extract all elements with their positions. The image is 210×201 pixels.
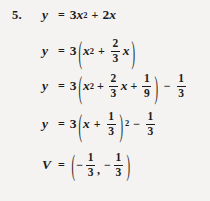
step-5-fraction-1-denominator: 3 [87, 166, 95, 179]
step-5-fraction-2-numerator: 1 [115, 152, 123, 165]
equation-step-4: y = 3 ( x + 1 3 ) 2 − 1 3 [42, 111, 157, 137]
step-1-term2-variable: x [109, 8, 116, 22]
step-3-lhs: y [42, 79, 55, 93]
step-2-fraction-numerator: 2 [111, 38, 119, 51]
step-2-fraction: 2 3 [111, 38, 120, 64]
step-3-operator-1: + [97, 80, 104, 92]
step-5-negative-sign-1: − [76, 159, 83, 171]
step-1-lhs: y [42, 8, 55, 22]
step-3-close-paren: ) [155, 70, 159, 102]
step-4-fraction-1: 1 3 [107, 111, 116, 137]
step-3-fraction-3-denominator: 3 [177, 87, 185, 100]
step-3-fraction-1-variable: x [121, 79, 128, 93]
step-4-operator-1: + [94, 118, 101, 130]
step-2-open-paren: ( [78, 35, 82, 67]
step-4-fraction-1-denominator: 3 [107, 125, 115, 138]
step-4-paren-exponent: 2 [125, 119, 129, 128]
step-2-lhs: y [42, 44, 55, 58]
step-5-comma: , [97, 164, 100, 178]
step-4-coefficient: 3 [70, 117, 77, 131]
step-5-fraction-1-numerator: 1 [87, 152, 95, 165]
step-5-fraction-2: 1 3 [114, 152, 123, 178]
step-3-fraction-1: 2 3 [109, 73, 118, 99]
step-2-fraction-variable: x [123, 44, 130, 58]
step-1-equals: = [58, 9, 65, 21]
step-5-fraction-2-denominator: 3 [115, 166, 123, 179]
step-3-fraction-1-denominator: 3 [109, 87, 117, 100]
step-5-equals: = [58, 159, 65, 171]
step-4-fraction-1-numerator: 1 [107, 111, 115, 124]
step-1-variable: x [77, 8, 84, 22]
step-4-fraction-2: 1 3 [146, 111, 155, 137]
step-1-operator: + [92, 9, 99, 21]
step-5-lhs: V [42, 158, 55, 172]
step-5-close-paren: ) [126, 151, 130, 180]
step-3-coefficient: 3 [70, 79, 77, 93]
step-5-fraction-1: 1 3 [86, 152, 95, 178]
step-3-open-paren: ( [78, 70, 82, 102]
step-2-equals: = [58, 45, 65, 57]
step-4-close-paren-group: ) 2 [118, 118, 130, 131]
worked-solution-sheet: 5. y = 3 x 2 + 2 x y = 3 ( x 2 + 2 3 x )… [0, 0, 210, 201]
step-2-fraction-denominator: 3 [111, 52, 119, 65]
step-3-fraction-3-numerator: 1 [177, 73, 185, 86]
step-4-close-paren: ) [119, 108, 123, 140]
step-3-fraction-2-denominator: 9 [143, 87, 151, 100]
step-3-equals: = [58, 80, 65, 92]
step-5-negative-sign-2: − [104, 159, 111, 171]
step-4-variable: x [83, 117, 90, 131]
equation-step-2: y = 3 ( x 2 + 2 3 x ) [42, 38, 136, 64]
problem-number: 5. [12, 8, 22, 23]
step-4-open-paren: ( [78, 108, 82, 140]
step-2-coefficient: 3 [70, 44, 77, 58]
step-3-fraction-2-numerator: 1 [143, 73, 151, 86]
step-1-coefficient: 3 [70, 8, 77, 22]
step-3-fraction-2: 1 9 [142, 73, 151, 99]
step-2-variable: x [83, 44, 90, 58]
step-3-operator-3: − [164, 80, 171, 92]
equation-step-3: y = 3 ( x 2 + 2 3 x + 1 9 ) − 1 3 [42, 73, 188, 99]
equation-step-5-vertex: V = ( − 1 3 , − 1 3 ) [42, 152, 131, 178]
step-2-operator: + [98, 45, 105, 57]
step-4-equals: = [58, 118, 65, 130]
step-4-lhs: y [42, 117, 55, 131]
step-4-fraction-2-denominator: 3 [147, 125, 155, 138]
step-5-open-paren: ( [71, 151, 75, 180]
step-2-close-paren: ) [131, 35, 135, 67]
step-3-variable: x [83, 79, 90, 93]
step-3-fraction-1-numerator: 2 [109, 73, 117, 86]
step-4-operator-2: − [133, 118, 140, 130]
step-3-fraction-3: 1 3 [177, 73, 186, 99]
step-4-fraction-2-numerator: 1 [147, 111, 155, 124]
equation-step-1: y = 3 x 2 + 2 x [42, 8, 116, 22]
step-3-operator-2: + [131, 80, 138, 92]
